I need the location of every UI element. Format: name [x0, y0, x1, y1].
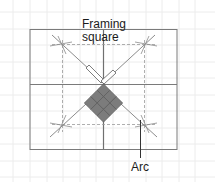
framing-square-label: Framing square	[82, 18, 126, 43]
arc-label: Arc	[131, 161, 149, 173]
framing-square-label-line2: square	[82, 31, 126, 43]
framing-square-label-line1: Framing	[82, 18, 126, 30]
framing-square-icon	[86, 65, 116, 84]
tile-pattern	[84, 84, 122, 122]
